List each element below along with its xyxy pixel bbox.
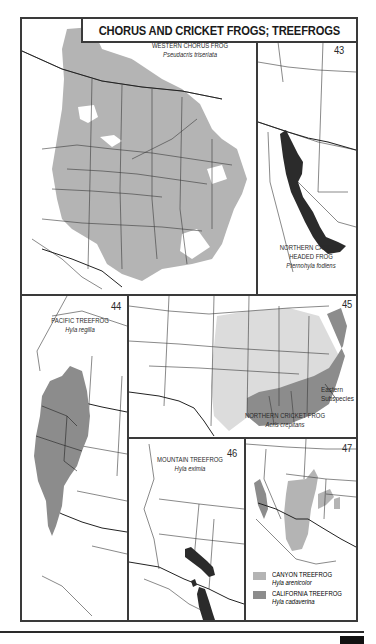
plate-title-box: CHORUS AND CRICKET FROGS; TREEFROGS [81, 17, 358, 43]
range-map-42 [22, 19, 257, 295]
map-annotation-45: Eastern Subspecies [318, 385, 358, 404]
map-panel-42 [22, 19, 257, 295]
scientific-name-44: Hyla regilla [44, 326, 115, 335]
map-label-43: NORTHERN CASQUE- HEADED FROG Pternohyla … [268, 244, 354, 270]
common-name-43-line2: HEADED FROG [274, 253, 347, 262]
map-label-42: WESTERN CHORUS FROG Pseudacris triseriat… [135, 42, 245, 60]
legend-item-california-treefrog: CALIFORNIA TREEFROG Hyla cadaverina [253, 590, 357, 607]
common-name-43-line1: NORTHERN CASQUE- [274, 244, 347, 253]
divider-row1-row2 [20, 294, 358, 296]
legend-common-name-2: CALIFORNIA TREEFROG [272, 590, 342, 598]
map-label-46: MOUNTAIN TREEFROG Hyla eximia [150, 456, 230, 474]
scientific-name-46: Hyla eximia [156, 465, 224, 474]
common-name-45: NORTHERN CRICKET FROG [238, 412, 332, 421]
legend-swatch-light [253, 572, 266, 580]
legend-item-canyon-treefrog: CANYON TREEFROG Hyla arenicolor [253, 571, 357, 588]
scientific-name-42: Pseudacris triseriata [143, 51, 237, 60]
divider-44-45 [127, 295, 129, 622]
annotation-45-line1: Eastern [321, 385, 355, 394]
divider-45-46 [128, 437, 358, 439]
common-name-42: WESTERN CHORUS FROG [143, 42, 237, 51]
annotation-45-line2: Subspecies [321, 394, 355, 403]
map-panel-44 [22, 296, 127, 620]
scientific-name-45: Acris crepitans [238, 421, 332, 430]
legend-scientific-name-2: Hyla cadaverina [272, 598, 342, 606]
plate-title: CHORUS AND CRICKET FROGS; TREEFROGS [99, 23, 340, 38]
map-number-47: 47 [342, 442, 352, 454]
map-label-45: NORTHERN CRICKET FROG Acris crepitans [230, 412, 340, 430]
legend-swatch-medium [253, 591, 266, 599]
range-map-44 [22, 296, 127, 620]
map-number-45: 45 [342, 298, 352, 310]
map-label-44: PACIFIC TREEFROG Hyla regilla [38, 317, 122, 335]
page-thumb-tab [340, 636, 364, 644]
divider-46-47 [244, 438, 246, 622]
legend-common-name-1: CANYON TREEFROG [272, 571, 332, 579]
scientific-name-43: Pternohyla fodiens [274, 262, 347, 271]
map-number-43: 43 [334, 44, 344, 56]
common-name-46: MOUNTAIN TREEFROG [156, 456, 224, 465]
legend-scientific-name-1: Hyla arenicolor [272, 579, 332, 587]
map-number-44: 44 [111, 300, 121, 312]
page-bottom-rule [0, 631, 364, 633]
map-legend-47: CANYON TREEFROG Hyla arenicolor CALIFORN… [253, 571, 357, 609]
common-name-44: PACIFIC TREEFROG [44, 317, 115, 326]
divider-42-43 [256, 42, 258, 296]
